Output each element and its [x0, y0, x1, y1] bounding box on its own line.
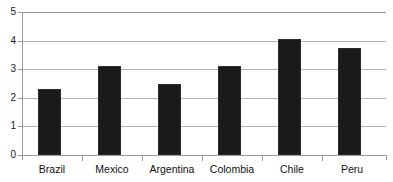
y-tick-label-1: 1	[2, 121, 16, 131]
x-tick-mark-5	[322, 156, 323, 161]
gridline-5	[22, 12, 386, 13]
gridline-4	[22, 41, 386, 42]
y-tick-label-5: 5	[2, 7, 16, 17]
y-tick-mark-2	[18, 98, 23, 99]
x-axis-label-colombia: Colombia	[202, 163, 262, 175]
x-tick-mark-2	[142, 156, 143, 161]
y-tick-label-4: 4	[2, 36, 16, 46]
x-axis-label-argentina: Argentina	[142, 163, 202, 175]
plot-area	[22, 12, 386, 155]
y-tick-mark-5	[18, 12, 23, 13]
x-axis-label-peru: Peru	[322, 163, 382, 175]
y-tick-label-3: 3	[2, 64, 16, 74]
bar-brazil	[38, 89, 61, 155]
bar-colombia	[218, 66, 241, 155]
gridline-3	[22, 69, 386, 70]
bar-chile	[278, 39, 301, 155]
x-axis-label-mexico: Mexico	[82, 163, 142, 175]
gridline-2	[22, 98, 386, 99]
y-tick-label-0: 0	[2, 150, 16, 160]
bar-argentina	[158, 84, 181, 156]
x-tick-mark-3	[202, 156, 203, 161]
x-tick-mark-1	[82, 156, 83, 161]
y-tick-mark-0	[18, 155, 23, 156]
y-tick-mark-4	[18, 41, 23, 42]
y-tick-label-2: 2	[2, 93, 16, 103]
x-axis-cap-right	[386, 155, 387, 160]
bar-mexico	[98, 66, 121, 155]
x-tick-mark-4	[262, 156, 263, 161]
x-axis-line	[22, 155, 387, 156]
bar-peru	[338, 48, 361, 155]
x-axis-label-chile: Chile	[262, 163, 322, 175]
y-axis-line	[22, 12, 23, 156]
y-tick-mark-1	[18, 126, 23, 127]
gridline-1	[22, 126, 386, 127]
x-axis-label-brazil: Brazil	[22, 163, 82, 175]
y-tick-mark-3	[18, 69, 23, 70]
bar-chart: 5 4 3 2 1 0 Brazil Mexico Argentina Colo…	[0, 0, 393, 182]
